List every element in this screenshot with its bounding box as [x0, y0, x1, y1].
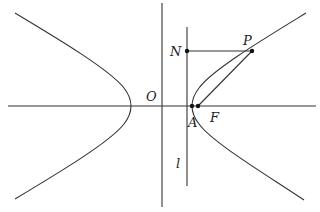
label-P: P — [242, 33, 252, 48]
label-N: N — [169, 44, 182, 59]
segment-PF — [198, 51, 252, 106]
point-P — [250, 49, 254, 53]
label-A: A — [187, 115, 197, 130]
point-N — [185, 49, 189, 53]
label-O: O — [146, 89, 157, 104]
label-F: F — [209, 110, 220, 125]
hyperbola-diagram: O N P A F l — [0, 0, 320, 212]
label-l: l — [176, 156, 180, 171]
point-F — [196, 104, 200, 108]
point-A — [190, 104, 194, 108]
